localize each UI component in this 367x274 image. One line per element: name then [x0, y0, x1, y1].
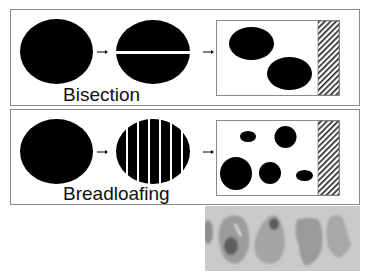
slice-shape: [220, 157, 252, 190]
hatched-edge: [318, 121, 339, 195]
half-specimen-shape: [229, 27, 274, 60]
arrow-icon: [203, 150, 214, 154]
breadloafing-label: Breadloafing: [63, 184, 170, 203]
hatched-edge: [318, 21, 339, 95]
slice-shape: [259, 162, 281, 184]
arrow-icon: [97, 50, 108, 54]
slice-shape: [275, 126, 297, 148]
slice-shape: [240, 131, 256, 142]
specimen-photo: [205, 206, 360, 271]
whole-specimen-shape: [20, 119, 93, 184]
half-specimen-shape: [267, 57, 312, 90]
whole-specimen-shape: [20, 19, 93, 84]
arrow-icon: [203, 50, 214, 54]
slice-shape: [296, 170, 313, 181]
arrow-icon: [97, 150, 108, 154]
bisection-label: Bisection: [63, 85, 140, 104]
